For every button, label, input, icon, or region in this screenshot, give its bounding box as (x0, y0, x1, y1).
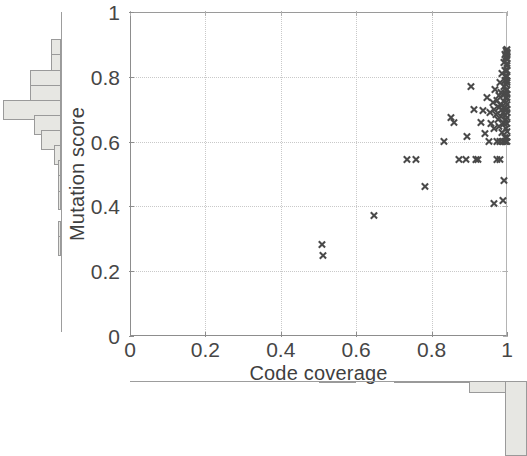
x-axis-tick (432, 332, 433, 337)
y-axis-tick-label: 1 (108, 2, 120, 23)
x-axis-tick-label: 0 (124, 339, 136, 360)
gridline-vertical (205, 12, 206, 336)
x-axis-tick (356, 332, 357, 337)
y-axis-tick-right (503, 142, 508, 143)
marginal-histogram-x (130, 381, 516, 456)
marginal-x-bar (394, 381, 432, 383)
y-axis-tick-right (503, 206, 508, 207)
y-axis-tick (129, 206, 134, 207)
marginal-x-bar (432, 381, 470, 383)
gridline-vertical (432, 12, 433, 336)
y-axis-title-holder: Mutation score (58, 12, 94, 336)
marginal-x-bar (505, 381, 527, 456)
y-axis-tick-label: 0 (108, 326, 120, 347)
gridline-horizontal (130, 206, 507, 207)
x-axis-tick-top (281, 11, 282, 16)
marginal-x-bar (469, 381, 507, 393)
y-axis-tick (129, 77, 134, 78)
gridline-vertical (281, 12, 282, 336)
y-axis-tick-right (503, 77, 508, 78)
y-axis-tick-label: 0.6 (91, 131, 120, 152)
y-axis-tick-label: 0.2 (91, 261, 120, 282)
gridline-horizontal (130, 142, 507, 143)
x-axis-tick-top (432, 11, 433, 16)
scatter-plot-panel (130, 12, 507, 336)
gridline-horizontal (130, 77, 507, 78)
y-axis-title: Mutation score (66, 107, 89, 241)
y-axis-tick (129, 12, 134, 13)
plot-frame (130, 12, 507, 336)
x-axis-tick-top (205, 11, 206, 16)
y-axis-tick (129, 142, 134, 143)
x-axis-tick-label: 0.2 (191, 339, 220, 360)
x-axis-tick-label: 0.6 (342, 339, 371, 360)
gridline-horizontal (130, 271, 507, 272)
x-axis-tick (281, 332, 282, 337)
x-axis-tick-label: 0.4 (266, 339, 295, 360)
gridline-vertical (356, 12, 357, 336)
marginal-x-bar (319, 381, 357, 383)
x-axis-tick (205, 332, 206, 337)
x-axis-tick-label: 0.8 (417, 339, 446, 360)
y-axis-tick-right (503, 12, 508, 13)
y-axis-tick-right (503, 336, 508, 337)
x-axis-tick-top (356, 11, 357, 16)
y-axis-tick (129, 271, 134, 272)
y-axis-tick-label: 0.4 (91, 196, 120, 217)
y-axis-tick (129, 336, 134, 337)
y-axis-tick-right (503, 271, 508, 272)
x-axis-tick-label: 1 (501, 339, 513, 360)
y-axis-tick-label: 0.8 (91, 66, 120, 87)
